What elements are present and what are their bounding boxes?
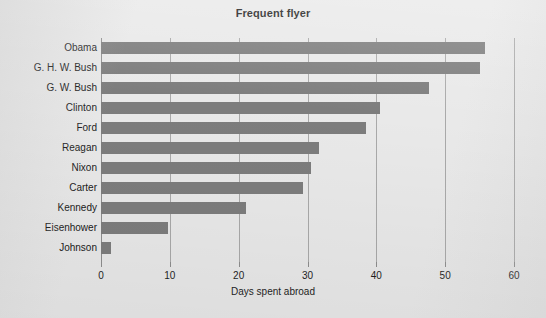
bar [101,42,485,54]
x-tick-label: 0 [81,270,121,281]
tick-mark-10 [170,262,171,267]
bar-row: Nixon [101,158,514,178]
chart-title: Frequent flyer [0,7,546,19]
x-tick-label: 50 [425,270,465,281]
bar-row: Clinton [101,98,514,118]
category-label-carter: Carter [0,182,97,194]
x-tick-label: 60 [494,270,534,281]
bar [101,142,319,154]
bar-row: G. H. W. Bush [101,58,514,78]
bar-row: Kennedy [101,198,514,218]
tick-mark-0 [101,262,102,267]
bar [101,102,380,114]
bar [101,202,246,214]
bar [101,242,111,254]
x-tick-label: 10 [150,270,190,281]
chart-figure: Frequent flyer ObamaG. H. W. BushG. W. B… [0,0,546,318]
bar-row: G. W. Bush [101,78,514,98]
x-tick-label: 20 [219,270,259,281]
bar [101,182,303,194]
category-label-kennedy: Kennedy [0,202,97,214]
bar [101,62,480,74]
bar [101,222,168,234]
x-axis-label: Days spent abroad [0,286,546,297]
category-label-johnson: Johnson [0,242,97,254]
tick-mark-60 [514,262,515,267]
bar-row: Eisenhower [101,218,514,238]
x-tick-label: 40 [356,270,396,281]
bar [101,122,366,134]
category-label-ford: Ford [0,122,97,134]
category-label-reagan: Reagan [0,142,97,154]
bar [101,82,429,94]
bar [101,162,311,174]
category-label-clinton: Clinton [0,102,97,114]
category-label-g-h-w-bush: G. H. W. Bush [0,62,97,74]
bar-row: Johnson [101,238,514,258]
bar-row: Ford [101,118,514,138]
tick-mark-40 [376,262,377,267]
category-label-nixon: Nixon [0,162,97,174]
tick-mark-20 [239,262,240,267]
category-label-eisenhower: Eisenhower [0,222,97,234]
tick-mark-30 [308,262,309,267]
x-tick-label: 30 [288,270,328,281]
gridline-60 [514,38,515,262]
category-label-g-w-bush: G. W. Bush [0,82,97,94]
plot-area: ObamaG. H. W. BushG. W. BushClintonFordR… [101,38,514,262]
bar-row: Obama [101,38,514,58]
bar-row: Carter [101,178,514,198]
tick-mark-50 [445,262,446,267]
category-label-obama: Obama [0,42,97,54]
bar-row: Reagan [101,138,514,158]
